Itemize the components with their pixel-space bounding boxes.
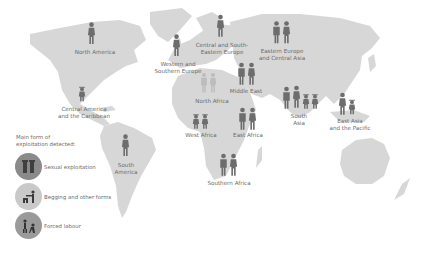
girl-figure-icon: [348, 98, 356, 116]
girl-figure-icon: [192, 113, 200, 130]
central-america-figures: [78, 85, 86, 103]
region-label-south-asia: South Asia: [291, 113, 307, 126]
region-label-east-africa: East Africa: [233, 132, 263, 139]
woman-figure-icon: [216, 14, 225, 38]
legend-item-forced-labour: Forced labour: [15, 212, 81, 239]
east-asia-figures: [338, 92, 356, 116]
region-label-central-se-europe: Central and South- Eastern Europe: [196, 42, 249, 55]
east-africa-figures: [238, 107, 257, 131]
man-figure-icon: [282, 86, 291, 110]
man-figure-icon: [237, 62, 246, 86]
region-label-south-america: South America: [114, 162, 137, 175]
woman-figure-icon: [292, 84, 301, 110]
legend-title: Main form of exploitation detected:: [16, 134, 75, 148]
eastern-europe-figures: [272, 20, 291, 45]
region-label-north-america: North America: [75, 49, 116, 56]
legend-item-sexual-exploitation: Sexual exploitation: [15, 153, 96, 180]
girl-figure-icon: [78, 85, 86, 103]
south-america-figures: [121, 134, 130, 157]
man-figure-icon: [272, 20, 281, 45]
south-asia-figures: [282, 84, 319, 110]
west-africa-figures: [192, 113, 209, 130]
girl-figure-icon: [201, 113, 209, 130]
region-label-middle-east: Middle East: [230, 88, 262, 95]
north-africa-figures: [200, 72, 217, 94]
woman-figure-icon: [282, 20, 291, 45]
woman-figure-icon: [338, 92, 347, 116]
begging-icon: [15, 183, 42, 210]
southern-africa-figures: [219, 152, 238, 178]
woman-figure-icon: [248, 107, 257, 131]
region-label-eastern-europe: Eastern Europe and Central Asia: [259, 48, 305, 61]
sexual-exploitation-icon: [15, 153, 42, 180]
greenland: [150, 8, 192, 42]
region-label-central-america: Central America and the Caribbean: [58, 106, 110, 119]
middle-east-figures: [237, 62, 256, 86]
central-se-europe-figures: [216, 14, 225, 38]
region-label-east-asia: East Asia and the Pacific: [329, 118, 370, 131]
region-label-western-europe: Western and Southern Europe: [155, 61, 202, 74]
woman-figure-icon: [247, 62, 256, 86]
woman-figure-icon: [229, 152, 238, 178]
forced-labour-icon: [15, 212, 42, 239]
western-europe-figures: [172, 34, 181, 57]
north-america-figures: [87, 22, 96, 45]
man-figure-icon: [219, 152, 228, 178]
region-label-west-africa: West Africa: [185, 132, 216, 139]
girl-figure-icon: [311, 93, 319, 110]
man-figure-icon: [200, 72, 208, 94]
woman-figure-icon: [87, 22, 96, 45]
region-label-southern-africa: Southern Africa: [207, 180, 250, 187]
woman-figure-icon: [121, 134, 130, 157]
girl-figure-icon: [302, 93, 310, 110]
region-label-north-africa: North Africa: [195, 98, 228, 105]
woman-figure-icon: [209, 72, 217, 94]
legend-item-begging: Begging and other forms: [15, 183, 111, 210]
man-figure-icon: [238, 107, 247, 131]
woman-figure-icon: [172, 34, 181, 57]
australia-landmass: [340, 138, 390, 184]
